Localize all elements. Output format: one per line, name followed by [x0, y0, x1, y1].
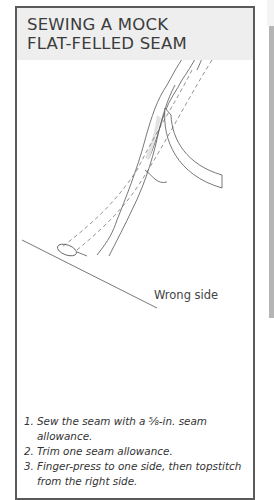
title-line-1: SEWING A MOCK [27, 15, 187, 34]
step-number: 1. [24, 414, 37, 444]
sidebar-box: SEWING A MOCK FLAT-FELLED SEAM [15, 6, 255, 500]
step-text: Sew the seam with a ⅝-in. seam allowance… [37, 414, 252, 444]
step-3: 3. Finger-press to one side, then topsti… [24, 459, 252, 489]
instructions-list: 1. Sew the seam with a ⅝-in. seam allowa… [24, 414, 252, 489]
step-text: Trim one seam allowance. [37, 444, 173, 459]
seam-illustration [17, 60, 253, 410]
title-line-2: FLAT-FELLED SEAM [27, 34, 187, 53]
step-1: 1. Sew the seam with a ⅝-in. seam allowa… [24, 414, 252, 444]
step-text: Finger-press to one side, then topstitch… [37, 459, 252, 489]
page-edge [267, 0, 274, 26]
box-title: SEWING A MOCK FLAT-FELLED SEAM [27, 15, 187, 53]
side-strip [269, 26, 274, 318]
box-header: SEWING A MOCK FLAT-FELLED SEAM [17, 8, 253, 60]
wrong-side-label: Wrong side [154, 288, 218, 302]
step-number: 2. [24, 444, 37, 459]
step-number: 3. [24, 459, 37, 489]
step-2: 2. Trim one seam allowance. [24, 444, 252, 459]
